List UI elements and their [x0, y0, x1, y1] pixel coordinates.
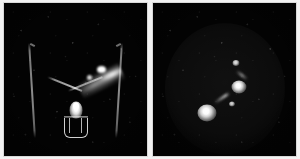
panel-left-vignette: [4, 3, 147, 156]
panel-right[interactable]: [153, 3, 296, 156]
scintigraphy-figure: [0, 0, 300, 159]
panel-right-vignette: [153, 3, 296, 156]
panel-left[interactable]: [4, 3, 147, 156]
